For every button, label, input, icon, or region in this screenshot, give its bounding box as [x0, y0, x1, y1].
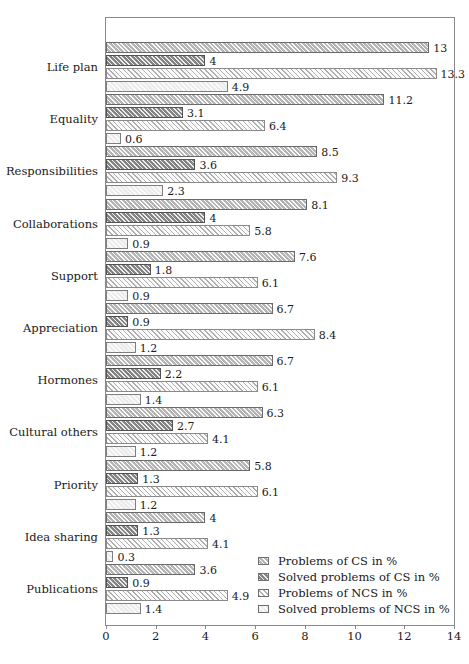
bar — [106, 486, 258, 497]
bar-value-label: 6.7 — [277, 356, 295, 367]
bar-value-label: 1.2 — [140, 447, 158, 458]
bar-value-label: 6.4 — [269, 121, 287, 132]
bar — [106, 185, 163, 196]
x-axis-ticks: 02468101214 — [0, 626, 469, 650]
bar-value-label: 6.3 — [267, 408, 285, 419]
category-label-collaborations: Collaborations — [0, 218, 98, 230]
bar — [106, 564, 195, 575]
x-tick-label: 8 — [301, 630, 308, 642]
bar — [106, 251, 295, 262]
bar — [106, 473, 138, 484]
bar — [106, 355, 273, 366]
bar — [106, 159, 195, 170]
bar-value-label: 4 — [209, 56, 216, 67]
bar — [106, 407, 263, 418]
bar — [106, 120, 265, 131]
bar — [106, 433, 208, 444]
x-tick-label: 4 — [202, 630, 209, 642]
category-label-support: Support — [0, 270, 98, 282]
bar-value-label: 4 — [209, 213, 216, 224]
legend-label: Solved problems of CS in % — [278, 571, 440, 584]
bar — [106, 420, 173, 431]
bar — [106, 381, 258, 392]
bar-value-label: 13 — [433, 43, 447, 54]
bar-value-label: 5.8 — [254, 461, 272, 472]
bar — [106, 146, 317, 157]
bars-layer: 13413.34.911.23.16.40.68.53.69.32.38.145… — [106, 18, 454, 625]
category-label-responsibilities: Responsibilities — [0, 165, 98, 177]
bar-value-label: 11.2 — [388, 95, 413, 106]
bar — [106, 42, 429, 53]
bar-value-label: 0.6 — [125, 134, 143, 145]
bar-value-label: 2.2 — [165, 369, 183, 380]
bar — [106, 316, 128, 327]
bar-value-label: 9.3 — [341, 173, 359, 184]
legend-swatch-icon — [258, 557, 269, 565]
bar-value-label: 0.9 — [132, 578, 150, 589]
category-axis-labels: Life planEqualityResponsibilitiesCollabo… — [0, 17, 98, 626]
bar-value-label: 4.1 — [212, 434, 230, 445]
x-tick-label: 0 — [102, 630, 109, 642]
bar — [106, 81, 228, 92]
bar — [106, 342, 136, 353]
category-label-appreciation: Appreciation — [0, 322, 98, 334]
bar-value-label: 8.1 — [311, 200, 329, 211]
legend-label: Solved problems of NCS in % — [278, 603, 450, 616]
bar-value-label: 0.9 — [132, 291, 150, 302]
legend-item: Problems of NCS in % — [258, 585, 450, 601]
legend-item: Solved problems of NCS in % — [258, 601, 450, 617]
legend-swatch-icon — [258, 605, 269, 613]
bar-value-label: 4.1 — [212, 539, 230, 550]
bar-value-label: 2.3 — [167, 186, 185, 197]
bar — [106, 290, 128, 301]
bar-value-label: 0.3 — [117, 552, 135, 563]
x-tick-label: 6 — [251, 630, 258, 642]
bar-value-label: 6.1 — [262, 382, 280, 393]
bar-value-label: 0.9 — [132, 239, 150, 250]
bar-value-label: 4.9 — [232, 591, 250, 602]
bar-value-label: 1.4 — [145, 604, 163, 615]
bar-value-label: 1.2 — [140, 343, 158, 354]
bar — [106, 199, 307, 210]
bar — [106, 303, 273, 314]
bar-value-label: 4 — [209, 513, 216, 524]
bar — [106, 512, 205, 523]
bar — [106, 394, 141, 405]
legend-item: Problems of CS in % — [258, 553, 450, 569]
chart-legend: Problems of CS in %Solved problems of CS… — [258, 553, 450, 617]
bar — [106, 55, 205, 66]
bar — [106, 551, 113, 562]
bar — [106, 446, 136, 457]
bar — [106, 133, 121, 144]
bar-value-label: 6.7 — [277, 304, 295, 315]
legend-swatch-icon — [258, 589, 269, 597]
bar-value-label: 3.1 — [187, 108, 205, 119]
category-label-hormones: Hormones — [0, 374, 98, 386]
x-tick-label: 14 — [447, 630, 462, 642]
category-label-life-plan: Life plan — [0, 61, 98, 73]
legend-label: Problems of CS in % — [278, 555, 397, 568]
bar — [106, 525, 138, 536]
bar — [106, 212, 205, 223]
x-tick-label: 2 — [152, 630, 159, 642]
x-tick-label: 12 — [397, 630, 412, 642]
legend-swatch-icon — [258, 573, 269, 581]
bar — [106, 68, 437, 79]
bar — [106, 329, 315, 340]
bar — [106, 107, 183, 118]
category-label-priority: Priority — [0, 479, 98, 491]
bar-value-label: 1.2 — [140, 500, 158, 511]
bar-value-label: 8.5 — [321, 147, 339, 158]
bar-value-label: 1.3 — [142, 474, 160, 485]
bar — [106, 94, 384, 105]
bar — [106, 538, 208, 549]
legend-item: Solved problems of CS in % — [258, 569, 450, 585]
bar-value-label: 8.4 — [319, 330, 337, 341]
bar — [106, 277, 258, 288]
bar — [106, 460, 250, 471]
category-label-publications: Publications — [0, 583, 98, 595]
bar-value-label: 7.6 — [299, 252, 317, 263]
legend-label: Problems of NCS in % — [278, 587, 407, 600]
bar-value-label: 0.9 — [132, 317, 150, 328]
bar-value-label: 3.6 — [199, 565, 217, 576]
